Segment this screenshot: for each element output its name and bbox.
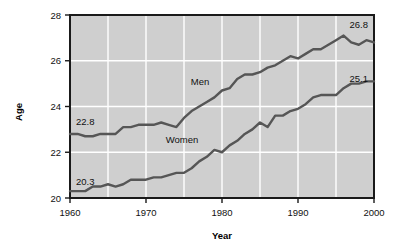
line-chart: 2022242628 19601970198019902000 Age Year… [0, 0, 400, 250]
y-tick-label: 26 [50, 55, 61, 66]
y-tick-label: 20 [50, 193, 61, 204]
series-label-men: Men [191, 76, 209, 87]
y-axis-title: Age [13, 103, 24, 121]
y-axis-tick-labels: 2022242628 [50, 10, 61, 204]
value-label-men-end: 26.8 [350, 19, 369, 30]
x-tick-label: 1990 [287, 207, 308, 218]
chart-container: 2022242628 19601970198019902000 Age Year… [0, 0, 400, 250]
x-tick-label: 1980 [211, 207, 232, 218]
series-label-women: Women [166, 134, 199, 145]
value-label-men-start: 22.8 [76, 116, 95, 127]
x-axis-title: Year [212, 230, 232, 241]
value-label-women-start: 20.3 [76, 176, 95, 187]
y-tick-label: 24 [50, 101, 61, 112]
x-tick-label: 1970 [135, 207, 156, 218]
y-tick-label: 28 [50, 10, 61, 21]
x-tick-label: 2000 [363, 207, 384, 218]
x-axis-tick-labels: 19601970198019902000 [59, 207, 384, 218]
value-label-women-end: 25.1 [350, 73, 369, 84]
x-tick-label: 1960 [59, 207, 80, 218]
y-tick-label: 22 [50, 147, 61, 158]
